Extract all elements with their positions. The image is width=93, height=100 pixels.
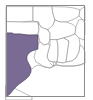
state-outline-kansas <box>6 7 33 22</box>
range-map-thumbnail <box>0 0 93 100</box>
map-canvas <box>0 0 93 100</box>
